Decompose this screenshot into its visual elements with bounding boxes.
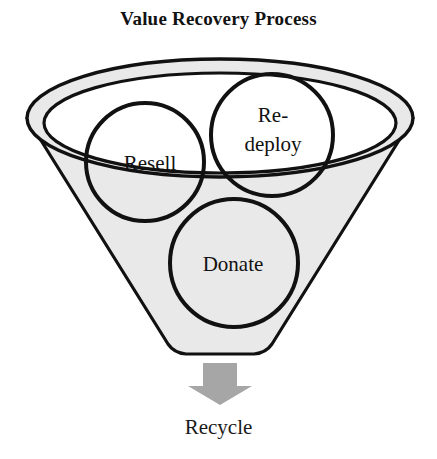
circle-label-resell: Resell	[124, 151, 177, 175]
recycle-arrow	[188, 363, 252, 405]
value-recovery-funnel-figure: Resell Re- deploy Donate	[0, 0, 437, 459]
diagram-canvas: Value Recovery Process Resell Re- deploy…	[0, 0, 437, 459]
circle-label-redeploy-line2: deploy	[244, 132, 302, 156]
recycle-label: Recycle	[0, 415, 437, 440]
circle-label-donate: Donate	[203, 252, 264, 276]
circle-label-redeploy-line1: Re-	[258, 103, 288, 127]
